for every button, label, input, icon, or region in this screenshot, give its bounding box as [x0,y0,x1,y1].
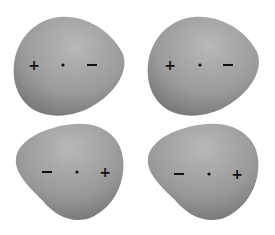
egg-bottom-right: + [148,124,259,220]
plus-sign: + [231,166,243,182]
plus-sign: + [28,57,40,73]
minus-sign [174,173,184,175]
egg-bottom-left: + [16,124,124,220]
minus-sign [42,171,52,173]
plus-sign: + [99,164,111,180]
plus-sign: + [164,57,176,73]
center-dot [207,172,210,175]
minus-sign [87,64,97,66]
center-dot [198,63,201,66]
center-dot [61,63,64,66]
egg-diagram: + + + + [0,0,275,235]
egg-top-right: + [148,17,259,116]
egg-top-left: + [14,17,125,116]
minus-sign [223,64,233,66]
center-dot [75,170,78,173]
